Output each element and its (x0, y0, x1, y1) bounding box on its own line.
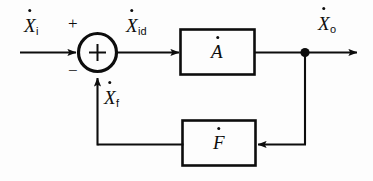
minus-sign-label: − (68, 62, 78, 79)
overdot-icon (217, 127, 220, 130)
overdot-icon (130, 9, 133, 12)
overdot-icon (216, 36, 219, 39)
forward-block-label: A (211, 42, 223, 61)
feedback-block-label: F (213, 133, 225, 152)
overdot-icon (322, 7, 325, 10)
overdot-icon (108, 81, 111, 84)
error-signal-label: Xid (126, 16, 147, 37)
forward-block-letter: A (211, 41, 223, 62)
output-subscript: o (330, 23, 336, 35)
feedback-block-letter: F (213, 132, 225, 153)
feedback-subscript: f (116, 97, 119, 109)
feedback-return-path (258, 53, 306, 145)
feedback-signal-label: Xf (104, 88, 119, 109)
plus-sign-label: + (68, 15, 78, 32)
error-subscript: id (138, 25, 147, 37)
overdot-icon (28, 9, 31, 12)
input-signal-label: Xi (24, 16, 39, 37)
summing-junction-circle (79, 34, 117, 72)
block-diagram-figure: Xi + − Xid A Xo Xf F (0, 0, 373, 181)
output-signal-label: Xo (318, 14, 336, 35)
input-subscript: i (36, 25, 38, 37)
